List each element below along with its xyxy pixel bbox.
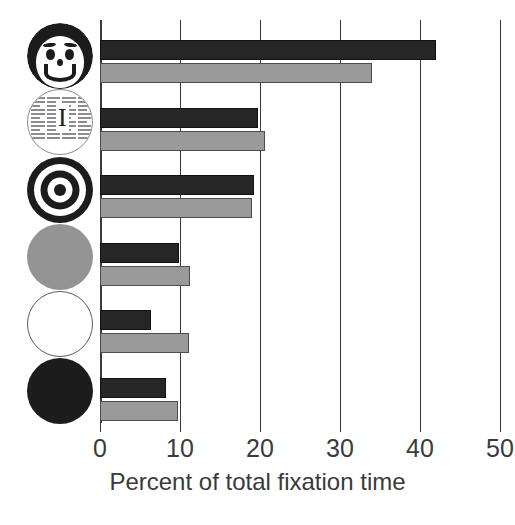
face-eye-left (46, 49, 55, 60)
newsprint-column (78, 93, 92, 153)
category-icon-newsprint: I (24, 86, 96, 158)
bar-newsprint-light (100, 131, 265, 151)
face-eye-right (65, 49, 74, 60)
x-tick-label: 0 (93, 434, 107, 463)
plot-area: 01020304050 (100, 20, 500, 423)
x-tick (420, 423, 421, 432)
category-icon-black-disc (24, 355, 96, 427)
category-icon-white-disc (24, 288, 96, 360)
x-tick-label: 50 (486, 434, 514, 463)
x-tick-label: 20 (246, 434, 274, 463)
gridline (500, 20, 501, 423)
x-tick (500, 423, 501, 432)
x-axis-title: Percent of total fixation time (0, 468, 515, 496)
bar-gray-disc-light (100, 266, 190, 286)
bar-black-disc-light (100, 401, 178, 421)
bar-bullseye-dark (100, 175, 254, 195)
bar-face-light (100, 63, 372, 83)
bullseye-target-icon (27, 157, 93, 223)
x-tick-label: 30 (326, 434, 354, 463)
category-icon-gray-disc (24, 221, 96, 293)
bar-white-disc-dark (100, 310, 151, 330)
x-tick (100, 423, 101, 432)
gray-filled-circle-icon (27, 224, 93, 290)
category-icon-column: I (24, 20, 96, 420)
bar-newsprint-dark (100, 108, 258, 128)
x-tick (180, 423, 181, 432)
bullseye-center (54, 184, 66, 196)
bar-chart-figure: I 01020304050 Percent of total fixati (0, 0, 515, 525)
newsprint-column (31, 93, 45, 153)
x-tick (260, 423, 261, 432)
bar-black-disc-dark (100, 378, 166, 398)
gridline (420, 20, 421, 423)
black-filled-circle-icon (27, 358, 93, 424)
newsprint-dropcap: I (56, 105, 69, 131)
bar-bullseye-light (100, 198, 252, 218)
white-outline-circle-icon (27, 291, 93, 357)
category-icon-face (24, 20, 96, 92)
bar-gray-disc-dark (100, 243, 179, 263)
x-tick-label: 10 (166, 434, 194, 463)
category-icon-bullseye (24, 154, 96, 226)
face-mouth (44, 64, 76, 82)
x-tick-label: 40 (406, 434, 434, 463)
bar-white-disc-light (100, 333, 189, 353)
bar-face-dark (100, 40, 436, 60)
newsprint-text-circle-icon: I (27, 89, 93, 155)
smiling-face-icon (26, 22, 94, 90)
x-tick (340, 423, 341, 432)
